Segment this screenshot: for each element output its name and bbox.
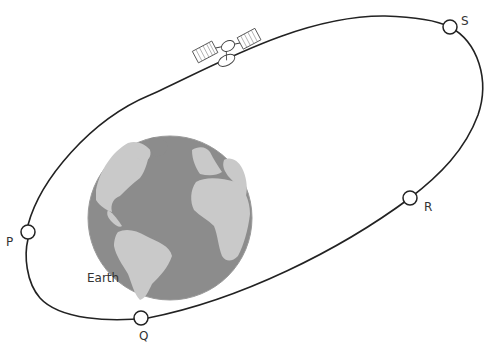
earth-label: Earth <box>87 271 119 285</box>
satellite-icon <box>192 20 264 77</box>
point-q-label: Q <box>139 329 148 343</box>
point-s-marker <box>443 20 457 34</box>
point-r-label: R <box>424 200 432 214</box>
point-p-label: P <box>6 235 13 249</box>
orbit-diagram <box>0 0 490 350</box>
point-p-marker <box>21 225 35 239</box>
point-s-label: S <box>461 14 469 28</box>
point-r-marker <box>403 191 417 205</box>
point-q-marker <box>134 311 148 325</box>
